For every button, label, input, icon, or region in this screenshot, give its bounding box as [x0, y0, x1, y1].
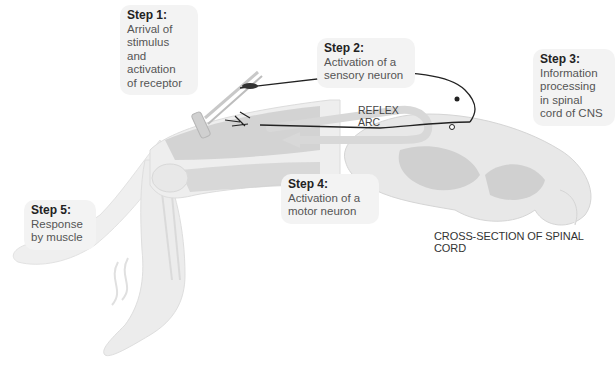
- step-5-title: Step 5:: [31, 204, 89, 218]
- step-1-description: Arrival of stimulus and activation of re…: [127, 23, 191, 91]
- step-4-description: Activation of a motor neuron: [288, 192, 372, 219]
- step-1-callout: Step 1: Arrival of stimulus and activati…: [120, 5, 198, 95]
- spinal-cord-cross-section: [344, 114, 591, 225]
- step-4-callout: Step 4: Activation of a motor neuron: [281, 174, 379, 224]
- step-1-title: Step 1:: [127, 9, 191, 23]
- step-5-callout: Step 5: Response by muscle: [24, 200, 96, 250]
- spinal-cord-caption: CROSS-SECTION OF SPINAL CORD: [434, 230, 616, 254]
- reflex-arc-diagram: Step 1: Arrival of stimulus and activati…: [0, 0, 616, 369]
- step-4-title: Step 4:: [288, 178, 372, 192]
- step-3-title: Step 3:: [540, 53, 608, 67]
- step-3-callout: Step 3: Information processing in spinal…: [533, 49, 615, 126]
- motion-lines: [112, 258, 128, 305]
- step-2-title: Step 2:: [324, 42, 408, 56]
- step-2-description: Activation of a sensory neuron: [324, 56, 408, 83]
- step-2-callout: Step 2: Activation of a sensory neuron: [317, 38, 415, 88]
- step-3-description: Information processing in spinal cord of…: [540, 67, 608, 121]
- step-5-description: Response by muscle: [31, 218, 89, 245]
- reflex-arc-label: REFLEX ARC: [358, 104, 399, 128]
